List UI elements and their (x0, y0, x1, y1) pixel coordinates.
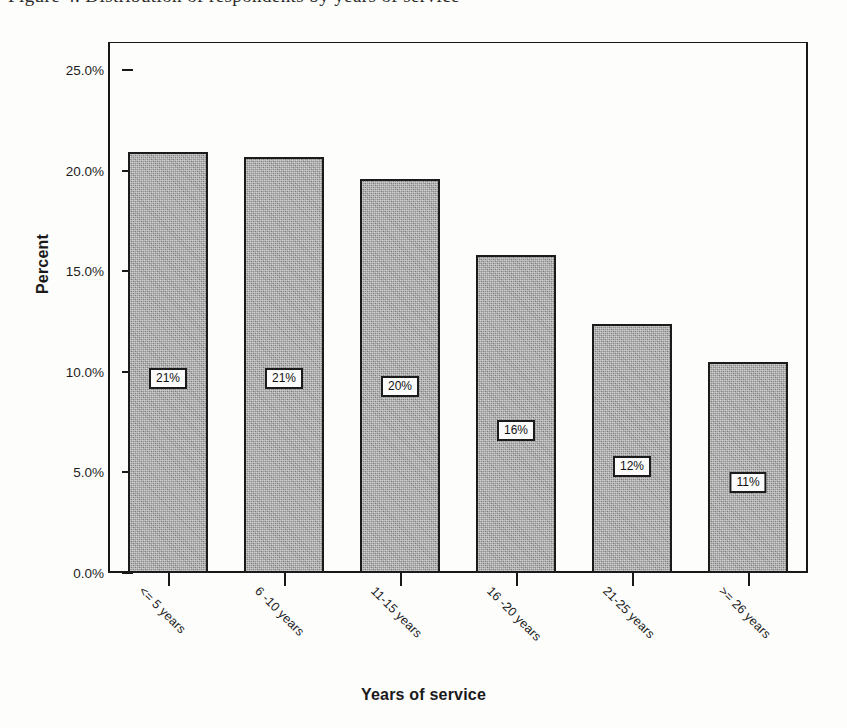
bar (476, 255, 556, 573)
y-tick-label: 0.0% (32, 566, 104, 581)
x-tick-mark (168, 573, 170, 586)
y-tick-mark (122, 69, 133, 71)
y-tick-label: 5.0% (32, 465, 104, 480)
bar (592, 324, 672, 573)
x-tick-label: 16 -20 years (484, 584, 544, 644)
x-axis-title: Years of service (0, 686, 847, 704)
x-tick-label: 11-15 years (368, 584, 425, 641)
x-tick-mark (284, 573, 286, 586)
bar (128, 152, 208, 573)
x-tick-label: 6 -10 years (252, 584, 307, 639)
x-tick-mark (632, 573, 634, 586)
x-tick-label: 21-25 years (600, 584, 657, 641)
y-tick-label: 15.0% (32, 264, 104, 279)
bar-value-label: 20% (381, 376, 419, 397)
y-axis-ticks: 0.0%5.0%10.0%15.0%20.0%25.0% (24, 0, 104, 728)
y-tick-label: 25.0% (32, 63, 104, 78)
chart-figure: Figure 4. Distribution of respondents by… (0, 0, 847, 728)
x-tick-label: <= 5 years (136, 584, 188, 636)
bar-value-label: 16% (497, 420, 535, 441)
x-tick-mark (400, 573, 402, 586)
bar (244, 157, 324, 573)
x-tick-mark (748, 573, 750, 586)
bar-value-label: 21% (265, 368, 303, 389)
bar (708, 362, 788, 573)
caption-remnant: Figure 4. Distribution of respondents by… (0, 0, 847, 16)
bar-value-label: 11% (729, 472, 766, 493)
bar-value-label: 21% (149, 368, 187, 389)
x-tick-label: >= 26 years (716, 584, 773, 641)
y-tick-label: 10.0% (32, 364, 104, 379)
x-tick-mark (516, 573, 518, 586)
plot-area (108, 42, 808, 573)
y-tick-label: 20.0% (32, 163, 104, 178)
bar-value-label: 12% (613, 456, 651, 477)
